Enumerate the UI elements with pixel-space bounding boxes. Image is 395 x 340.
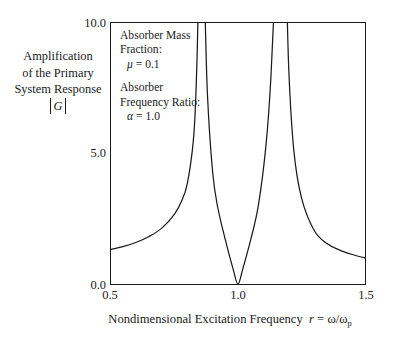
x-axis-omega-numerator: ω bbox=[327, 312, 335, 326]
mass-fraction-line2: Fraction: bbox=[120, 43, 216, 57]
x-axis-equals: = bbox=[317, 312, 324, 326]
alpha-symbol: α bbox=[127, 110, 133, 123]
mu-value: = 0.1 bbox=[136, 58, 160, 71]
x-axis-title-text: Nondimensional Excitation Frequency bbox=[108, 312, 302, 326]
annotation-spacer bbox=[120, 72, 216, 81]
x-axis-subscript-p: p bbox=[347, 318, 351, 328]
x-tick-label-1p0: 1.0 bbox=[224, 289, 252, 302]
frequency-ratio-line2: Frequency Ratio: bbox=[120, 96, 216, 110]
x-axis-title: Nondimensional Excitation Frequency r = … bbox=[70, 312, 390, 327]
frequency-ratio-line1: Absorber bbox=[120, 81, 216, 95]
x-axis-variable-r: r bbox=[309, 312, 314, 326]
chart-figure: Amplification of the Primary System Resp… bbox=[0, 0, 395, 340]
mu-symbol: μ bbox=[127, 58, 133, 71]
mass-fraction-line1: Absorber Mass bbox=[120, 29, 216, 43]
y-tick-label-10: 10.0 bbox=[84, 17, 106, 30]
frequency-ratio-value: α = 1.0 bbox=[120, 110, 216, 124]
x-tick-label-0p5: 0.5 bbox=[96, 289, 124, 302]
plot-annotation: Absorber Mass Fraction: μ = 0.1 Absorber… bbox=[120, 29, 216, 124]
alpha-value: = 1.0 bbox=[136, 110, 160, 123]
x-tick-label-1p5: 1.5 bbox=[352, 289, 380, 302]
y-tick-label-5: 5.0 bbox=[90, 147, 106, 160]
mass-fraction-value: μ = 0.1 bbox=[120, 58, 216, 72]
